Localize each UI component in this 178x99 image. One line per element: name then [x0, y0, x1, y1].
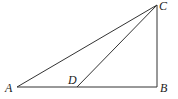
label-c: C [159, 0, 168, 13]
triangle-diagram: A D B C [0, 0, 178, 99]
label-d: D [67, 73, 77, 87]
label-a: A [4, 81, 13, 95]
segment-cd [77, 5, 157, 87]
label-b: B [160, 81, 168, 95]
segment-ca [17, 5, 157, 87]
